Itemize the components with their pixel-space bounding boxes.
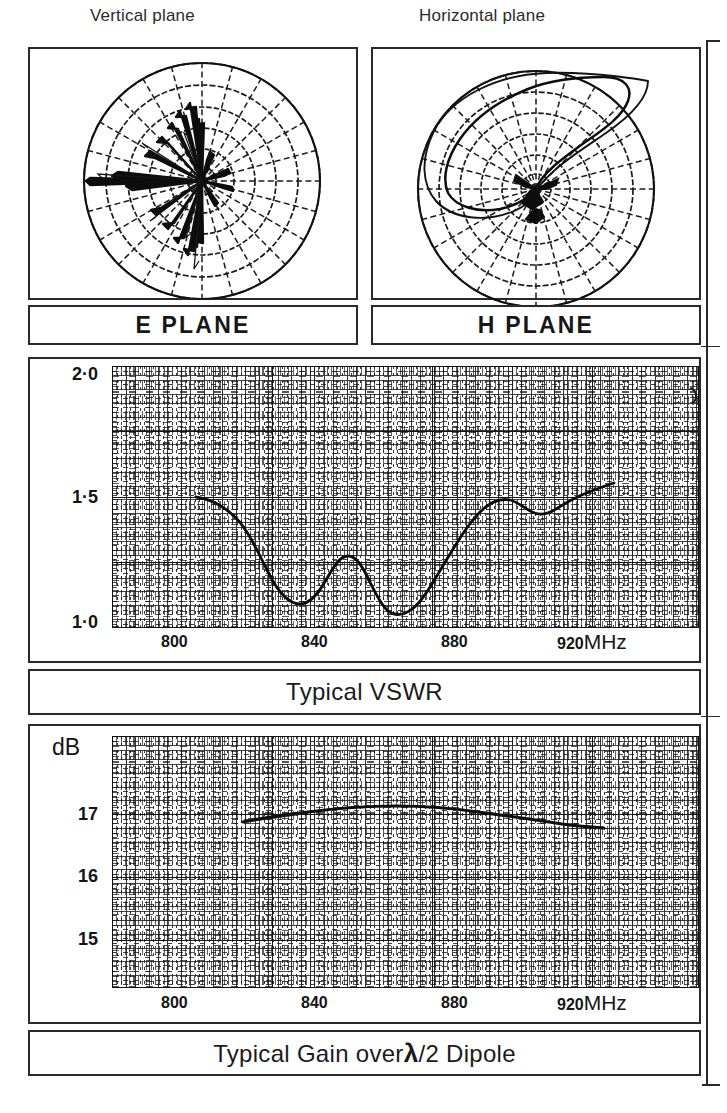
gain-trace: [112, 736, 699, 988]
vswr-ytick-1-0: 1·0: [46, 612, 98, 633]
outer-frame-mid-rule-1: [701, 346, 720, 347]
gain-ytick-15: 15: [56, 929, 98, 950]
vswr-xtick-920-value: 920: [557, 635, 584, 652]
gain-xtick-800: 800: [161, 994, 188, 1012]
vswr-ytick-1-5: 1·5: [46, 487, 98, 508]
e-plane-caption: E PLANE: [135, 312, 250, 339]
outer-frame-mid-rule-2: [701, 716, 720, 717]
vswr-xaxis-unit: MHz: [584, 630, 627, 653]
h-plane-polar-chart: [373, 49, 699, 298]
gain-yaxis-title: dB: [52, 734, 80, 761]
h-plane-panel: [371, 47, 701, 300]
vswr-plot-area: [112, 366, 699, 628]
gain-caption: Typical Gain overλ/2 Dipole: [213, 1038, 516, 1069]
vswr-xtick-880: 880: [441, 633, 468, 651]
gain-plot-area: [112, 736, 699, 988]
e-plane-panel: [28, 47, 358, 300]
vswr-trace: [112, 366, 699, 628]
e-plane-polar-chart: [30, 49, 356, 298]
vswr-caption: Typical VSWR: [286, 678, 443, 706]
lambda-symbol: λ: [404, 1038, 419, 1068]
gain-panel: dB 17 16 15 800 840 880 920MHz: [28, 724, 701, 1024]
vswr-ytick-2-0: 2·0: [46, 364, 98, 385]
outer-frame-right-rule: [706, 40, 708, 1086]
gain-caption-suffix: /2 Dipole: [418, 1040, 515, 1067]
horizontal-plane-label: Horizontal plane: [419, 6, 545, 26]
gain-caption-prefix: Typical Gain over: [213, 1040, 404, 1067]
vertical-plane-label: Vertical plane: [90, 6, 195, 26]
vswr-xtick-840: 840: [301, 633, 328, 651]
gain-xaxis-unit: MHz: [584, 991, 627, 1014]
gain-xtick-920-value: 920: [557, 996, 584, 1013]
outer-frame-bottom-rule: [702, 1084, 720, 1086]
gain-caption-box: Typical Gain overλ/2 Dipole: [28, 1030, 701, 1076]
vswr-xtick-920: 920MHz: [557, 630, 627, 654]
vswr-panel: 2·0 1·5 1·0 800 840 880 920MHz: [28, 357, 701, 663]
vswr-caption-box: Typical VSWR: [28, 669, 701, 715]
e-plane-caption-box: E PLANE: [28, 305, 358, 345]
gain-ytick-16: 16: [56, 866, 98, 887]
outer-frame-top-rule: [706, 40, 720, 42]
gain-xtick-920: 920MHz: [557, 991, 627, 1015]
gain-ytick-17: 17: [56, 804, 98, 825]
h-plane-caption-box: H PLANE: [371, 305, 701, 345]
h-plane-caption: H PLANE: [478, 312, 594, 339]
vswr-xtick-800: 800: [161, 633, 188, 651]
gain-xtick-840: 840: [301, 994, 328, 1012]
gain-xtick-880: 880: [441, 994, 468, 1012]
